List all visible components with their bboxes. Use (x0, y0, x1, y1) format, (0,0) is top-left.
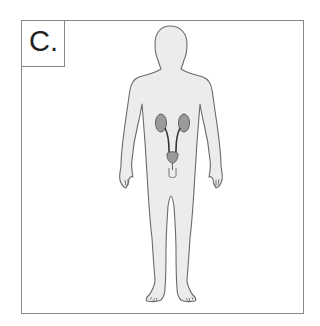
panel-label-box: C. (21, 20, 65, 67)
panel-label: C. (29, 27, 58, 56)
body-outline (120, 26, 223, 302)
